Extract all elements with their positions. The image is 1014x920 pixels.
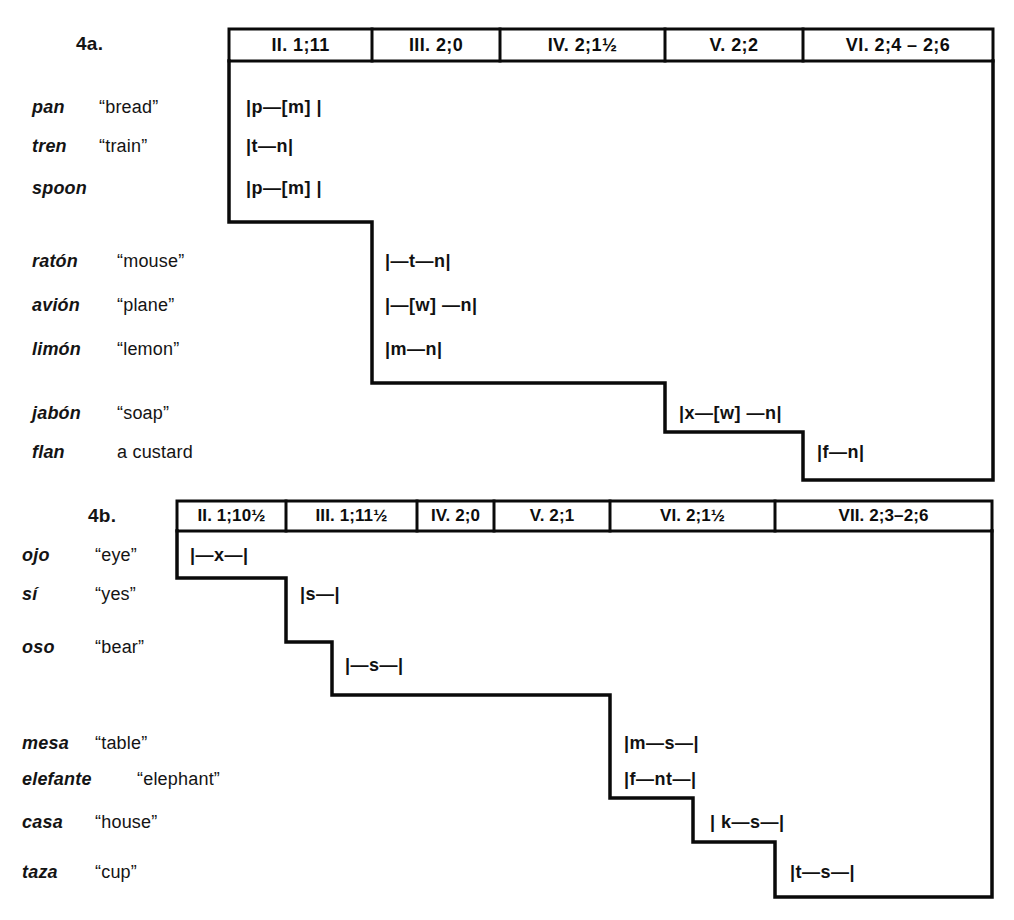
gloss-row: oso “bear” bbox=[22, 637, 144, 658]
gloss-meaning: “cup” bbox=[95, 862, 137, 883]
transcription: |—[w] —n| bbox=[385, 295, 478, 316]
panel-b-header-cell-5: VI. 2;1½ bbox=[610, 501, 775, 531]
panel-b-header-cell-4: V. 2;1 bbox=[494, 501, 610, 531]
gloss-word: pan bbox=[32, 97, 94, 118]
gloss-word: limón bbox=[32, 339, 112, 360]
transcription: |t—n| bbox=[246, 136, 294, 157]
panel-b-header-cell-3: IV. 2;0 bbox=[417, 501, 494, 531]
panel-a-header-cell-5: VI. 2;4 – 2;6 bbox=[803, 29, 993, 61]
transcription: |—s—| bbox=[345, 655, 404, 676]
gloss-meaning: “soap” bbox=[117, 403, 169, 424]
gloss-meaning: “mouse” bbox=[117, 251, 184, 272]
gloss-word: tren bbox=[32, 136, 94, 157]
transcription: |—t—n| bbox=[385, 251, 451, 272]
gloss-meaning: “house” bbox=[95, 812, 157, 833]
gloss-word: oso bbox=[22, 637, 90, 658]
transcription: | k—s—| bbox=[710, 812, 785, 833]
gloss-row: sí “yes” bbox=[22, 584, 136, 605]
gloss-row: avión “plane” bbox=[32, 295, 174, 316]
gloss-row: casa “house” bbox=[22, 812, 157, 833]
gloss-meaning: “eye” bbox=[95, 545, 137, 566]
panel-a-header-cell-4: V. 2;2 bbox=[665, 29, 803, 61]
gloss-meaning: “plane” bbox=[117, 295, 174, 316]
gloss-meaning: “yes” bbox=[95, 584, 136, 605]
gloss-row: taza “cup” bbox=[22, 862, 137, 883]
gloss-meaning: “bear” bbox=[95, 637, 144, 658]
transcription: |f—n| bbox=[817, 442, 865, 463]
gloss-row: mesa “table” bbox=[22, 733, 147, 754]
transcription: |f—nt—| bbox=[624, 769, 697, 790]
gloss-word: taza bbox=[22, 862, 90, 883]
transcription: |x—[w] —n| bbox=[679, 403, 782, 424]
gloss-word: sí bbox=[22, 584, 90, 605]
gloss-word: ojo bbox=[22, 545, 90, 566]
panel-b-header-cell-2: III. 1;11½ bbox=[286, 501, 417, 531]
panel-a-header-cell-1: II. 1;11 bbox=[229, 29, 372, 61]
gloss-word: mesa bbox=[22, 733, 90, 754]
gloss-row: ojo “eye” bbox=[22, 545, 137, 566]
gloss-word: avión bbox=[32, 295, 112, 316]
gloss-word: ratón bbox=[32, 251, 112, 272]
gloss-meaning: “table” bbox=[95, 733, 147, 754]
gloss-row: ratón “mouse” bbox=[32, 251, 184, 272]
panel-b-header-cell-6: VII. 2;3–2;6 bbox=[775, 501, 992, 531]
transcription: |p—[m] | bbox=[246, 178, 322, 199]
transcription: |t—s—| bbox=[790, 862, 855, 883]
gloss-word: spoon bbox=[32, 178, 94, 199]
panel-a-header-cell-2: III. 2;0 bbox=[372, 29, 500, 61]
panel-b-label: 4b. bbox=[88, 505, 116, 527]
transcription: |m—n| bbox=[385, 339, 443, 360]
panel-a-staircase bbox=[229, 61, 993, 480]
transcription: |m—s—| bbox=[624, 733, 699, 754]
panel-b-header-cell-1: II. 1;10½ bbox=[177, 501, 286, 531]
transcription: |s—| bbox=[300, 584, 340, 605]
gloss-row: tren “train” bbox=[32, 136, 147, 157]
transcription: |p—[m] | bbox=[246, 97, 322, 118]
gloss-row: jabón “soap” bbox=[32, 403, 169, 424]
gloss-row: elefante “elephant” bbox=[22, 769, 220, 790]
transcription: |—x—| bbox=[190, 545, 249, 566]
gloss-meaning: “lemon” bbox=[117, 339, 179, 360]
gloss-row: flan a custard bbox=[32, 442, 193, 463]
gloss-row: spoon bbox=[32, 178, 99, 199]
gloss-word: casa bbox=[22, 812, 90, 833]
gloss-meaning: a custard bbox=[117, 442, 193, 463]
gloss-word: flan bbox=[32, 442, 112, 463]
gloss-row: pan “bread” bbox=[32, 97, 158, 118]
gloss-word: jabón bbox=[32, 403, 112, 424]
gloss-row: limón “lemon” bbox=[32, 339, 179, 360]
panel-a-header-cell-3: IV. 2;1½ bbox=[500, 29, 665, 61]
panel-a-label: 4a. bbox=[76, 33, 103, 55]
gloss-meaning: “train” bbox=[99, 136, 147, 157]
gloss-meaning: “elephant” bbox=[137, 769, 220, 790]
staircase-figure: 4a. II. 1;11 III. 2;0 IV. 2;1½ V. 2;2 VI… bbox=[0, 0, 1014, 920]
gloss-word: elefante bbox=[22, 769, 132, 790]
gloss-meaning: “bread” bbox=[99, 97, 158, 118]
